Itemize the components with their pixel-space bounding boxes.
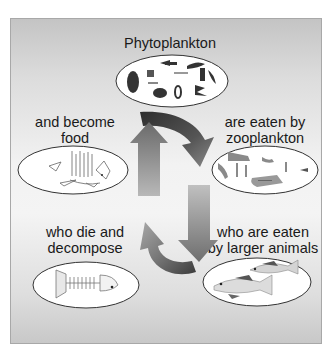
- ellipse-larger-animals: [203, 258, 311, 306]
- arrow-up: [130, 122, 168, 196]
- ellipse-phytoplankton: [116, 55, 228, 107]
- ellipse-decompose: [33, 262, 139, 308]
- arrow-down: [178, 185, 218, 262]
- ellipse-zooplankton: [212, 146, 318, 194]
- ellipse-food: [18, 146, 128, 194]
- diagram-graphics: [0, 0, 334, 354]
